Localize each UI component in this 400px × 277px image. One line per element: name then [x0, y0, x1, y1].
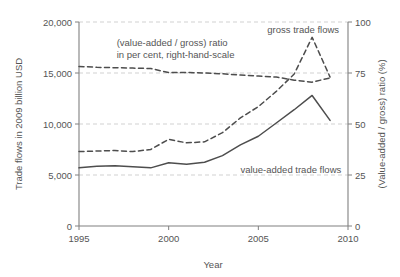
left-axis-ticks [75, 22, 79, 226]
x-axis-title: Year [203, 259, 222, 270]
y2-tick-label: 0 [355, 221, 360, 232]
y2-tick-label: 100 [355, 17, 371, 28]
y-tick-label: 5,000 [48, 170, 72, 181]
value-added-annotation: value-added trade flows [240, 164, 341, 175]
x-tick-label: 2000 [158, 233, 179, 244]
ratio-annotation: in per cent, right-hand-scale [117, 49, 235, 60]
x-tick-label: 2010 [337, 233, 358, 244]
gross-annotation: gross trade flows [267, 24, 339, 35]
y-axis-title: Trade flows in 2009 billion USD [13, 58, 24, 190]
y2-axis-title: (Value-added / gross) ratio (%) [376, 59, 387, 188]
y2-tick-label: 75 [355, 68, 366, 79]
y-tick-label: 10,000 [43, 119, 72, 130]
chart-figure: 05,00010,00015,00020,000 0255075100 1995… [0, 0, 400, 277]
y2-tick-label: 50 [355, 119, 366, 130]
series-line [79, 95, 330, 167]
x-tick-label: 2005 [248, 233, 269, 244]
y-tick-label: 20,000 [43, 17, 72, 28]
x-axis-tick-labels: 1995200020052010 [68, 233, 358, 244]
right-axis-ticks [348, 22, 352, 226]
right-axis-tick-labels: 0255075100 [355, 17, 371, 232]
series-line [79, 66, 330, 82]
left-axis-tick-labels: 05,00010,00015,00020,000 [43, 17, 72, 232]
ratio-annotation: (value-added / gross) ratio [117, 37, 228, 48]
x-axis-ticks [79, 226, 348, 230]
x-tick-label: 1995 [68, 233, 89, 244]
y-tick-label: 15,000 [43, 68, 72, 79]
y-tick-label: 0 [67, 221, 72, 232]
trade-flows-line-chart: 05,00010,00015,00020,000 0255075100 1995… [0, 0, 400, 277]
y2-tick-label: 25 [355, 170, 366, 181]
